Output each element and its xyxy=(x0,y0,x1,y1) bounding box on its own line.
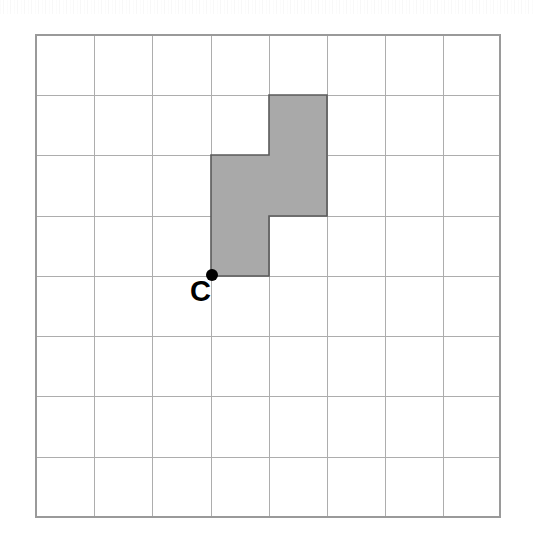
shaded-polyomino xyxy=(211,95,327,276)
point-c-label: C xyxy=(190,275,211,307)
figure-canvas: Coordinate grid with shaded S-tetromino … xyxy=(0,0,535,540)
shaded-cell xyxy=(269,155,327,216)
shaded-cell xyxy=(269,95,327,155)
point-c-group: C xyxy=(190,269,218,307)
shaded-cell xyxy=(211,155,269,216)
shaded-cell xyxy=(211,216,269,276)
grid-figure-svg: Coordinate grid with shaded S-tetromino … xyxy=(0,0,535,540)
